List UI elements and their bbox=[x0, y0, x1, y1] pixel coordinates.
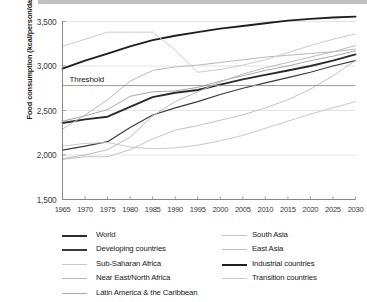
figure-root: Food consumption (kcal/person/day) 1,500… bbox=[0, 0, 367, 302]
legend-label[interactable]: Sub-Saharan Africa bbox=[96, 259, 161, 268]
legend-swatch bbox=[222, 278, 247, 279]
legend-swatch bbox=[222, 264, 247, 266]
legend-swatch bbox=[222, 235, 247, 236]
legend-swatch bbox=[62, 249, 87, 250]
legend-swatch bbox=[62, 264, 87, 265]
legend-swatch bbox=[222, 249, 247, 250]
legend-label[interactable]: Near East/North Africa bbox=[96, 273, 170, 282]
legend-label[interactable]: Transition countries bbox=[252, 273, 317, 282]
legend-label[interactable]: Developing countries bbox=[96, 244, 166, 253]
legend-label[interactable]: Latin America & the Caribbean bbox=[96, 288, 197, 297]
legend-swatch bbox=[62, 235, 87, 237]
legend-label[interactable]: World bbox=[96, 230, 115, 239]
chart-legend: WorldDeveloping countriesSub-Saharan Afr… bbox=[0, 0, 367, 302]
legend-swatch bbox=[62, 278, 87, 279]
legend-label[interactable]: East Asia bbox=[252, 244, 283, 253]
legend-label[interactable]: Industrial countries bbox=[252, 259, 314, 268]
legend-swatch bbox=[62, 293, 87, 294]
legend-label[interactable]: South Asia bbox=[252, 230, 288, 239]
